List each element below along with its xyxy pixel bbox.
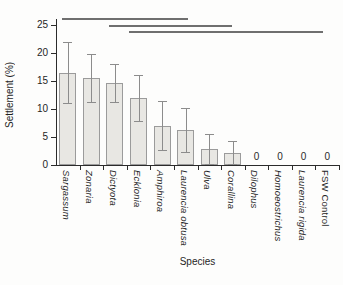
y-tick-mark xyxy=(51,53,56,54)
x-tick-label-7: Corallina xyxy=(226,170,237,209)
x-tick-label-0: Sargassum xyxy=(61,170,72,220)
significance-line-3 xyxy=(129,31,323,33)
x-axis-title: Species xyxy=(56,256,339,267)
x-tick-label-11: FSW Control xyxy=(320,170,331,227)
y-tick-label: 20 xyxy=(26,47,48,59)
y-tick-label: 10 xyxy=(26,103,48,115)
y-axis-title: Settlement (%) xyxy=(4,25,15,165)
error-bar-line-6 xyxy=(209,134,210,164)
y-tick-mark xyxy=(51,137,56,138)
error-bar-line-4 xyxy=(162,101,163,150)
x-tick-mark xyxy=(339,166,340,170)
x-tick-mark xyxy=(198,166,199,170)
x-tick-label-4: Amphiroa xyxy=(155,170,166,212)
error-bar-line-0 xyxy=(68,42,69,102)
error-bar-cap-bottom-2 xyxy=(110,102,119,103)
error-bar-cap-bottom-6 xyxy=(205,164,214,165)
zero-value-label-9: 0 xyxy=(272,151,288,162)
error-bar-cap-bottom-0 xyxy=(63,103,72,104)
x-tick-label-10: Laurencia rigida xyxy=(297,170,308,241)
x-tick-mark xyxy=(127,166,128,170)
error-bar-cap-top-7 xyxy=(228,141,237,142)
x-tick-mark xyxy=(174,166,175,170)
y-tick-label: 25 xyxy=(26,19,48,31)
y-tick-mark xyxy=(51,25,56,26)
x-tick-label-2: Dictyota xyxy=(108,170,119,206)
x-tick-mark xyxy=(80,166,81,170)
error-bar-cap-bottom-3 xyxy=(134,121,143,122)
significance-line-2 xyxy=(109,25,232,27)
x-tick-mark xyxy=(245,166,246,170)
error-bar-cap-bottom-4 xyxy=(158,150,167,151)
y-tick-label: 0 xyxy=(26,159,48,171)
error-bar-cap-top-4 xyxy=(158,101,167,102)
error-bar-cap-top-2 xyxy=(110,64,119,65)
x-tick-label-3: Ecklonia xyxy=(132,170,143,208)
zero-value-label-10: 0 xyxy=(296,151,312,162)
error-bar-cap-top-1 xyxy=(87,54,96,55)
zero-value-label-8: 0 xyxy=(248,151,264,162)
y-tick-label: 15 xyxy=(26,75,48,87)
error-bar-cap-bottom-1 xyxy=(87,102,96,103)
x-tick-mark xyxy=(292,166,293,170)
zero-value-label-11: 0 xyxy=(319,151,335,162)
x-tick-mark xyxy=(268,166,269,170)
x-tick-label-1: Zonaria xyxy=(84,170,95,204)
y-tick-mark xyxy=(51,81,56,82)
error-bar-cap-bottom-5 xyxy=(181,152,190,153)
x-tick-label-5: Laurencia obtusa xyxy=(179,170,190,246)
error-bar-cap-top-3 xyxy=(134,75,143,76)
x-tick-mark xyxy=(103,166,104,170)
x-tick-label-8: Dilophus xyxy=(249,170,260,209)
x-tick-mark xyxy=(150,166,151,170)
significance-line-1 xyxy=(62,18,188,20)
x-tick-label-6: Ulva xyxy=(202,170,213,190)
settlement-bar-chart-figure: 0510152025SargassumZonariaDictyotaEcklon… xyxy=(0,0,343,285)
plot-area: 0510152025SargassumZonariaDictyotaEcklon… xyxy=(0,0,343,285)
error-bar-line-2 xyxy=(115,64,116,102)
error-bar-line-7 xyxy=(233,141,234,164)
y-tick-mark xyxy=(51,165,56,166)
x-tick-mark xyxy=(221,166,222,170)
error-bar-line-1 xyxy=(91,54,92,102)
x-tick-label-9: Homoeostrichus xyxy=(273,170,284,241)
error-bar-line-5 xyxy=(186,108,187,152)
error-bar-cap-bottom-7 xyxy=(228,164,237,165)
error-bar-cap-top-5 xyxy=(181,108,190,109)
error-bar-cap-top-6 xyxy=(205,134,214,135)
y-axis-line xyxy=(56,19,57,166)
y-tick-label: 5 xyxy=(26,131,48,143)
x-tick-mark xyxy=(315,166,316,170)
error-bar-line-3 xyxy=(139,75,140,121)
error-bar-cap-top-0 xyxy=(63,42,72,43)
y-tick-mark xyxy=(51,109,56,110)
